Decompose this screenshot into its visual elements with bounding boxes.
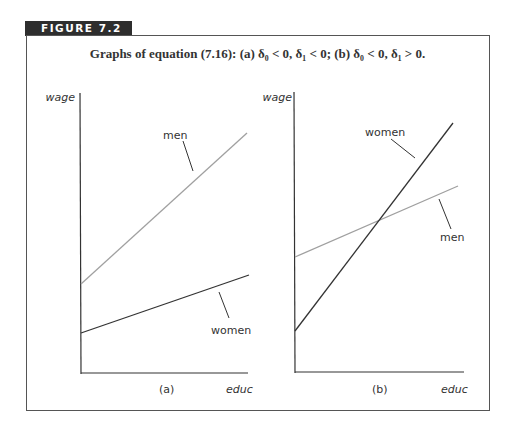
line-men-a bbox=[81, 133, 247, 284]
label-women-a: women bbox=[211, 324, 251, 337]
label-women-b: women bbox=[365, 126, 405, 139]
label-men-a: men bbox=[163, 129, 187, 142]
leader-women-b bbox=[391, 139, 415, 158]
y-label-a: wage bbox=[46, 91, 76, 104]
y-axis-a bbox=[80, 93, 81, 374]
leader-men-b bbox=[439, 199, 451, 229]
chart-canvas: wage men women (a) educ wage women men (… bbox=[0, 0, 515, 426]
leader-women-a bbox=[219, 292, 229, 318]
y-label-b: wage bbox=[263, 91, 293, 104]
panel-tag-b: (b) bbox=[372, 383, 388, 396]
label-men-b: men bbox=[440, 231, 464, 244]
panel-tag-a: (a) bbox=[159, 383, 174, 396]
panel-a: wage men women (a) educ bbox=[46, 91, 253, 396]
line-women-b bbox=[295, 123, 453, 331]
leader-men-a bbox=[183, 141, 193, 171]
x-label-a: educ bbox=[226, 383, 253, 396]
line-men-b bbox=[295, 186, 458, 257]
x-label-b: educ bbox=[441, 383, 468, 396]
panel-b: wage women men (b) educ bbox=[263, 91, 468, 396]
